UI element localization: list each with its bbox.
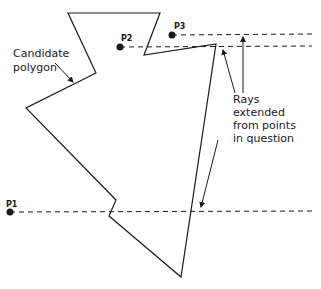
rays-label-line2: extended: [233, 107, 285, 119]
ray-arrow-p2: [223, 50, 235, 93]
point-p2-label: P2: [121, 33, 132, 45]
point-p3-label: P3: [174, 21, 185, 33]
rays-label-line3: from points: [233, 120, 296, 132]
polygon-label-line1: Candidate: [13, 48, 69, 60]
ray-arrow-p1: [201, 140, 218, 207]
polygon-label-line2: polygon: [13, 62, 57, 74]
ray-p1: [10, 211, 312, 212]
point-p1-label: P1: [6, 199, 17, 211]
polygon-label-arrow: [55, 63, 73, 82]
rays-label-line1: Rays: [233, 94, 259, 106]
rays-label-line4: in question: [233, 133, 294, 145]
ray-p3: [172, 34, 312, 35]
